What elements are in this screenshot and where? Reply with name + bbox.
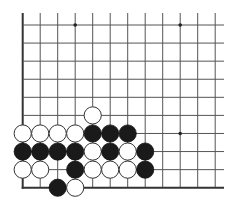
star-point <box>178 132 182 136</box>
white-stone <box>49 125 66 142</box>
black-stone <box>49 179 66 196</box>
black-stone <box>14 143 31 160</box>
white-stone <box>119 161 136 178</box>
white-stone <box>14 125 31 142</box>
black-stone <box>137 143 154 160</box>
white-stone <box>32 161 49 178</box>
black-stone <box>32 143 49 160</box>
white-stone <box>14 161 31 178</box>
white-stone <box>84 161 101 178</box>
white-stone <box>84 107 101 124</box>
black-stone <box>67 143 84 160</box>
star-point <box>73 23 77 27</box>
black-stone <box>137 161 154 178</box>
white-stone <box>67 125 84 142</box>
white-stone <box>102 161 119 178</box>
go-board[interactable] <box>0 0 237 208</box>
white-stone <box>67 179 84 196</box>
black-stone <box>119 125 136 142</box>
white-stone <box>84 143 101 160</box>
black-stone <box>84 125 101 142</box>
white-stone <box>119 143 136 160</box>
black-stone <box>49 143 66 160</box>
stones-layer <box>14 107 154 197</box>
star-point <box>178 23 182 27</box>
black-stone <box>102 125 119 142</box>
black-stone <box>102 143 119 160</box>
black-stone <box>67 161 84 178</box>
white-stone <box>32 125 49 142</box>
